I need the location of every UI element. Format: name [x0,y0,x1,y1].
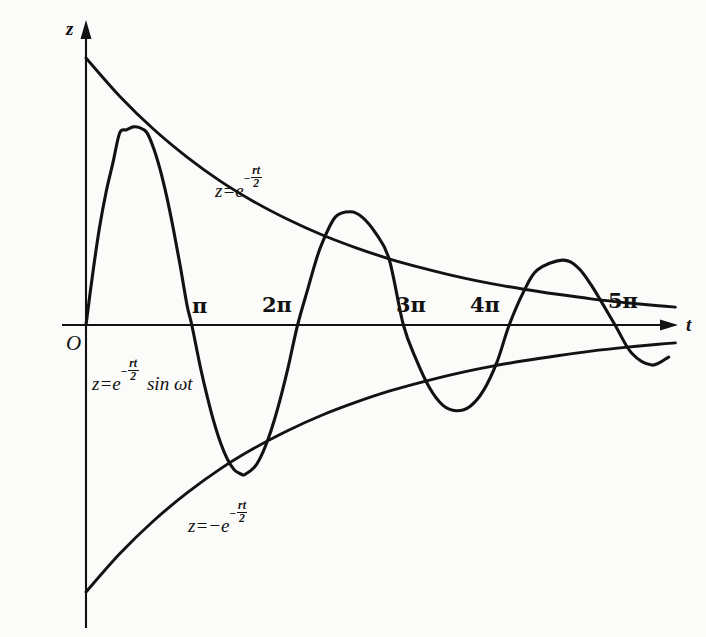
lower-eq-exp-minus: − [229,507,236,519]
upper-eq-fraction: rt2 [251,165,262,190]
lower-envelope-equation-label: z=−e−rt2 [188,500,248,535]
x-axis-label: t [686,315,691,334]
x-axis-arrowhead [660,320,678,331]
y-axis-arrowhead [81,20,92,39]
plot-canvas [0,0,706,637]
damped-oscillation-figure: z t O π 2π 3π 4π 5π z=e−rt2 z=−e−rt2 z=e… [0,0,706,637]
origin-label: O [66,333,81,354]
y-axis-label: z [66,19,73,38]
main-curve-equation-label: z=e−rt2sin ωt [92,358,193,393]
main-eq-lead: z=e [92,373,121,394]
main-eq-trail: sin ωt [147,373,193,394]
tick-label-3pi: 3π [396,294,426,315]
upper-envelope-curve [86,58,675,307]
damped-sine-curve [86,127,669,475]
lower-eq-exp-denominator: 2 [237,513,248,525]
upper-envelope-equation-label: z=e−rt2 [215,165,262,200]
tick-label-2pi: 2π [262,294,292,315]
upper-eq-exp-denominator: 2 [251,178,262,190]
main-eq-exponent: −rt2 [121,358,139,383]
lower-eq-exponent: −rt2 [229,500,247,525]
tick-label-pi: π [192,295,207,316]
upper-eq-exp-minus: − [244,172,251,184]
upper-eq-lead: z=e [215,180,244,201]
upper-eq-exponent: −rt2 [244,165,262,190]
lower-eq-fraction: rt2 [237,500,248,525]
tick-label-5pi: 5π [608,290,638,311]
main-eq-fraction: rt2 [128,358,139,383]
lower-eq-lead: z=−e [188,515,229,536]
main-eq-exp-minus: − [121,365,128,377]
main-eq-exp-denominator: 2 [128,371,139,383]
tick-label-4pi: 4π [470,294,500,315]
axis-group [62,20,678,628]
